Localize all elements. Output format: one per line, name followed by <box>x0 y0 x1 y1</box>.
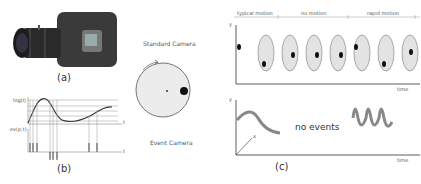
standard-camera-disk <box>136 60 190 117</box>
log-intensity-plot <box>28 97 122 160</box>
bottom-y-label: y <box>229 96 232 102</box>
top-time-label: time <box>397 86 408 92</box>
event-label: ev(p,t) <box>10 126 27 132</box>
panel-a-caption: (a) <box>57 72 71 83</box>
log-intensity-label: log(I) <box>13 97 26 103</box>
panel-c-caption: (c) <box>275 161 288 172</box>
segment-rapid-motion: rapid motion <box>367 10 399 16</box>
lower-time-label: t <box>123 148 125 154</box>
panel-b-caption: (b) <box>57 163 71 174</box>
bottom-x-label: x <box>253 133 256 139</box>
upper-time-label: t <box>123 119 125 125</box>
no-events-label: no events <box>295 122 339 132</box>
top-y-label: y <box>229 21 232 27</box>
standard-camera-label: Standard Camera <box>143 40 196 47</box>
camera-photo <box>13 12 117 67</box>
bottom-time-label: time <box>397 157 408 163</box>
figure-graphics <box>0 0 421 184</box>
segment-no-motion: no motion <box>301 10 326 16</box>
standard-camera-frames <box>234 15 420 84</box>
event-camera-label: Event Camera <box>150 139 193 146</box>
segment-typical-motion: typical motion <box>237 10 273 16</box>
